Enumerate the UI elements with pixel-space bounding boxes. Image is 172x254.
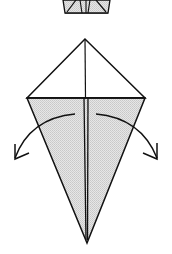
kite-figure [27, 39, 145, 243]
previous-step-fragment [63, 0, 110, 14]
origami-diagram [0, 0, 172, 254]
flap-edge-right [88, 98, 89, 240]
diagram-canvas [0, 0, 172, 254]
center-crease-top [85, 39, 86, 98]
